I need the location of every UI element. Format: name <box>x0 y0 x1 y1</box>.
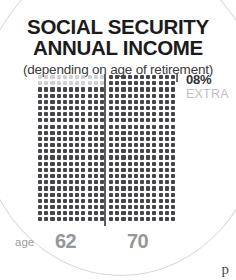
dot-glyph <box>140 211 144 215</box>
dot-glyph <box>94 118 98 122</box>
dot-glyph <box>159 94 163 98</box>
dot-glyph <box>88 174 92 178</box>
dot-glyph <box>152 94 156 98</box>
dot-glyph <box>94 94 98 98</box>
dot-glyph <box>88 131 92 135</box>
dot-glyph <box>152 211 156 215</box>
dot-glyph <box>38 118 42 122</box>
dot-glyph <box>63 81 67 85</box>
dot-glyph <box>75 112 79 116</box>
dot-glyph <box>81 125 85 129</box>
dot-glyph <box>121 112 125 116</box>
dot-glyph <box>88 100 92 104</box>
dot-glyph <box>94 81 98 85</box>
dot-glyph <box>159 149 163 153</box>
dot-glyph <box>165 118 169 122</box>
dot-glyph <box>140 100 144 104</box>
dot-glyph <box>57 143 61 147</box>
dot-glyph <box>152 125 156 129</box>
dot-glyph <box>63 143 67 147</box>
dot-glyph <box>115 131 119 135</box>
axis-value-70: 70 <box>127 230 148 253</box>
dot-glyph <box>50 106 54 110</box>
dot-glyph <box>75 143 79 147</box>
dot-glyph <box>50 168 54 172</box>
dot-glyph <box>152 174 156 178</box>
dot-glyph <box>134 94 138 98</box>
dot-glyph <box>134 162 138 166</box>
dot-glyph <box>140 162 144 166</box>
dot-glyph <box>128 186 132 190</box>
dot-glyph <box>44 143 48 147</box>
dot-glyph <box>69 217 73 221</box>
dot-glyph <box>152 186 156 190</box>
dot-glyph <box>57 174 61 178</box>
dot-glyph <box>128 211 132 215</box>
dot-glyph <box>50 199 54 203</box>
dot-glyph <box>146 211 150 215</box>
dot-glyph <box>75 205 79 209</box>
dot-glyph <box>109 87 113 91</box>
dot-glyph <box>140 75 144 79</box>
dot-glyph <box>69 149 73 153</box>
dot-glyph <box>57 106 61 110</box>
dot-glyph <box>159 100 163 104</box>
dot-glyph <box>140 118 144 122</box>
dot-glyph <box>57 94 61 98</box>
page-title-line-2: ANNUAL INCOME <box>0 37 236 58</box>
dot-glyph <box>69 131 73 135</box>
dot-glyph <box>140 193 144 197</box>
dot-glyph <box>146 106 150 110</box>
dot-glyph <box>94 168 98 172</box>
dot-glyph <box>134 131 138 135</box>
axis-labels: age 62 70 <box>0 230 236 256</box>
dot-glyph <box>69 106 73 110</box>
dot-glyph <box>115 180 119 184</box>
dot-glyph <box>63 100 67 104</box>
dot-glyph <box>50 143 54 147</box>
dot-glyph <box>134 168 138 172</box>
dot-glyph <box>109 205 113 209</box>
dot-glyph <box>121 149 125 153</box>
dot-glyph <box>38 94 42 98</box>
dot-glyph <box>128 94 132 98</box>
dot-glyph <box>152 81 156 85</box>
dot-glyph <box>94 199 98 203</box>
dot-glyph <box>115 106 119 110</box>
dot-glyph <box>63 174 67 178</box>
dot-glyph <box>69 125 73 129</box>
dot-glyph <box>146 87 150 91</box>
dot-glyph <box>109 81 113 85</box>
dot-glyph <box>152 118 156 122</box>
dot-glyph <box>88 180 92 184</box>
dot-glyph <box>134 155 138 159</box>
dot-glyph <box>63 211 67 215</box>
dot-glyph <box>121 118 125 122</box>
dot-glyph <box>140 94 144 98</box>
dot-glyph <box>38 100 42 104</box>
dot-glyph <box>159 199 163 203</box>
dot-glyph <box>50 87 54 91</box>
dot-glyph <box>57 162 61 166</box>
dot-glyph <box>69 193 73 197</box>
dot-glyph <box>69 100 73 104</box>
dot-glyph <box>50 205 54 209</box>
dot-glyph <box>115 193 119 197</box>
dot-glyph <box>115 168 119 172</box>
dot-glyph <box>171 81 175 85</box>
dot-glyph <box>171 75 175 79</box>
dot-glyph <box>121 75 125 79</box>
dot-glyph <box>38 131 42 135</box>
dot-glyph <box>171 137 175 141</box>
dot-glyph <box>121 193 125 197</box>
dot-glyph <box>109 217 113 221</box>
dot-glyph <box>109 149 113 153</box>
dot-glyph <box>81 199 85 203</box>
dot-glyph <box>140 168 144 172</box>
dot-glyph <box>75 94 79 98</box>
dot-glyph <box>50 217 54 221</box>
dot-glyph <box>88 149 92 153</box>
dot-glyph <box>57 87 61 91</box>
dot-glyph <box>94 193 98 197</box>
dot-glyph <box>75 168 79 172</box>
